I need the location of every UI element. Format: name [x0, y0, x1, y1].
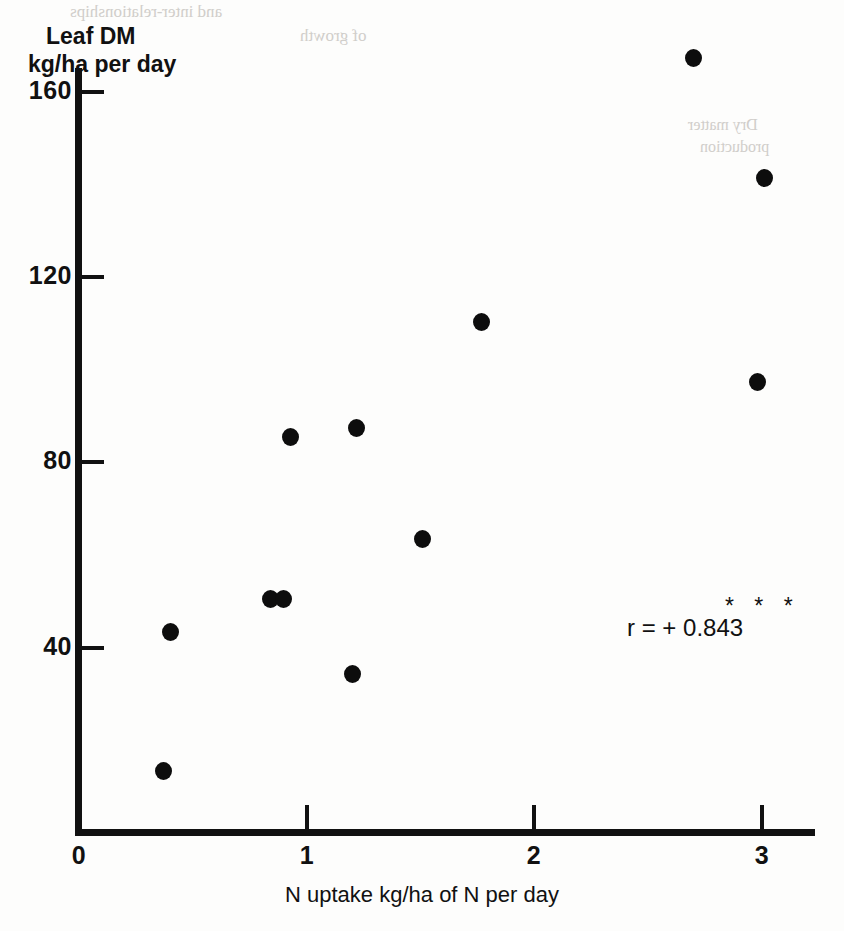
- x-tick-mark-2: [532, 805, 536, 830]
- data-point: [473, 313, 490, 331]
- x-tick-label-2: 2: [504, 841, 564, 870]
- x-tick-label-3: 3: [732, 841, 792, 870]
- correlation-annotation: r = + 0.843: [627, 614, 743, 642]
- y-tick-mark-160: [82, 90, 104, 94]
- data-point: [756, 169, 773, 187]
- x-axis-line: [75, 829, 815, 836]
- y-tick-label-80: 80: [2, 446, 72, 475]
- data-point: [348, 419, 365, 437]
- y-axis-line: [75, 68, 82, 836]
- plot-area: 160 120 80 40 0 1 2 3 * * * r = + 0.843: [0, 0, 844, 931]
- data-point: [344, 665, 361, 683]
- x-tick-label-0: 0: [49, 841, 109, 870]
- data-point: [275, 590, 292, 608]
- y-tick-mark-40: [82, 646, 104, 650]
- x-tick-mark-1: [305, 805, 309, 830]
- data-point: [749, 373, 766, 391]
- y-tick-mark-80: [82, 460, 104, 464]
- x-tick-label-1: 1: [277, 841, 337, 870]
- data-point: [414, 530, 431, 548]
- y-tick-label-160: 160: [2, 76, 72, 105]
- data-point: [162, 623, 179, 641]
- x-axis-title: N uptake kg/ha of N per day: [0, 882, 844, 908]
- data-point: [282, 428, 299, 446]
- x-tick-mark-3: [760, 805, 764, 830]
- y-tick-mark-120: [82, 275, 104, 279]
- data-point: [685, 49, 702, 67]
- scatter-plot-figure: and inter-relationships of growth Dry ma…: [0, 0, 844, 931]
- y-tick-label-120: 120: [2, 261, 72, 290]
- y-tick-label-40: 40: [2, 632, 72, 661]
- data-point: [155, 762, 172, 780]
